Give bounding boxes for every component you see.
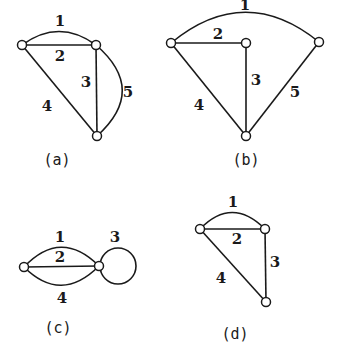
figure-b: 1 2 3 4 5 (b) xyxy=(167,0,324,169)
node-d2 xyxy=(261,225,270,234)
edge-d-3 xyxy=(265,229,266,302)
graph-figures-canvas: 1 2 3 4 5 (a) 1 2 3 4 5 (b) 1 2 3 4 (c) xyxy=(0,0,338,355)
node-b1 xyxy=(167,39,176,48)
edge-label-a-4: 4 xyxy=(42,97,52,115)
edge-label-d-2: 2 xyxy=(232,230,242,248)
edge-c-4 xyxy=(24,266,99,285)
edge-label-d-1: 1 xyxy=(228,193,238,211)
edge-c-3-loop xyxy=(100,248,136,284)
edge-label-d-4: 4 xyxy=(216,269,226,287)
node-b4 xyxy=(242,132,251,141)
node-a1 xyxy=(18,41,27,50)
node-a3 xyxy=(93,132,102,141)
edge-label-a-2: 2 xyxy=(55,47,65,65)
node-a2 xyxy=(92,41,101,50)
caption-c: (c) xyxy=(44,319,71,337)
node-d3 xyxy=(262,298,271,307)
edge-label-a-1: 1 xyxy=(55,12,65,30)
edge-label-b-1: 1 xyxy=(240,0,250,14)
edge-label-c-4: 4 xyxy=(57,289,67,307)
edge-d-1 xyxy=(200,213,265,230)
figure-d: 1 2 3 4 (d) xyxy=(196,193,281,343)
caption-b: (b) xyxy=(232,151,259,169)
edge-label-b-5: 5 xyxy=(290,83,300,101)
edge-b-5 xyxy=(246,42,319,136)
edge-label-a-3: 3 xyxy=(81,73,91,91)
edge-b-4 xyxy=(171,43,246,136)
node-c1 xyxy=(20,263,29,272)
caption-a: (a) xyxy=(43,151,70,169)
caption-d: (d) xyxy=(221,325,248,343)
node-b3 xyxy=(315,38,324,47)
edge-c-2 xyxy=(24,266,99,267)
edge-label-c-1: 1 xyxy=(55,228,65,246)
edge-label-b-2: 2 xyxy=(213,25,223,43)
node-d1 xyxy=(196,225,205,234)
edge-label-c-2: 2 xyxy=(55,248,65,266)
edge-label-c-3: 3 xyxy=(110,228,120,246)
node-b2 xyxy=(242,39,251,48)
edge-label-a-5: 5 xyxy=(123,83,133,101)
edge-label-b-4: 4 xyxy=(194,96,204,114)
edge-a-1 xyxy=(22,32,96,46)
figure-c: 1 2 3 4 (c) xyxy=(20,228,137,337)
edge-a-3 xyxy=(96,45,97,136)
edge-label-b-3: 3 xyxy=(251,71,261,89)
figure-a: 1 2 3 4 5 (a) xyxy=(18,12,134,169)
edge-a-5 xyxy=(96,45,122,136)
node-c2 xyxy=(95,262,104,271)
edge-label-d-3: 3 xyxy=(270,253,280,271)
